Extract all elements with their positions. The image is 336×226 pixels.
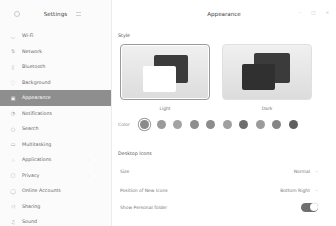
sidebar-item-network[interactable]: ⇅Network [0,44,111,60]
accent-color-row: Color [118,120,305,129]
theme-light-preview[interactable] [120,44,210,100]
header-bar: Appearance – □ × [112,0,336,28]
applications-icon: ⁘ [10,157,16,163]
color-swatch-9[interactable] [272,120,281,129]
sidebar: Settings ◡Wi-Fi⇅Network▯Bluetooth◌Backgr… [0,0,112,226]
sidebar-item-online-accounts[interactable]: ◯Online Accounts [0,183,111,199]
page-title: Appearance [207,11,241,17]
light-window-shape [143,66,176,92]
close-icon[interactable]: × [325,10,330,15]
theme-light[interactable]: Light [120,44,210,111]
sidebar-item-label: Network [22,49,42,54]
color-swatch-7[interactable] [239,120,248,129]
color-swatch-10[interactable] [289,120,298,129]
theme-light-label: Light [159,106,170,111]
sidebar-item-sound[interactable]: ♫Sound [0,214,111,226]
desktop-icons-section-label: Desktop Icons [112,151,152,156]
search-icon[interactable] [14,11,20,17]
color-swatch-2[interactable] [157,120,166,129]
theme-dark-preview[interactable] [222,44,312,100]
theme-dark-label: Dark [262,106,273,111]
minimize-icon[interactable]: – [297,10,302,15]
icon-size-dropdown[interactable]: Normal ⌄ [294,169,318,174]
sidebar-item-wi-fi[interactable]: ◡Wi-Fi [0,28,111,44]
sidebar-item-background[interactable]: ◌Background [0,75,111,91]
sidebar-item-label: Online Accounts [22,188,61,193]
multitasking-icon: ▭ [10,141,16,147]
sidebar-item-label: Applications [22,157,51,162]
background-icon: ◌ [10,79,16,85]
icon-size-row: Size Normal ⌄ [120,164,318,178]
sharing-icon: ◁ [10,203,16,209]
sidebar-header: Settings [0,0,111,28]
settings-window: Settings ◡Wi-Fi⇅Network▯Bluetooth◌Backgr… [0,0,336,226]
sidebar-item-label: Search [22,126,38,131]
color-swatches [140,120,305,129]
main-panel: Appearance – □ × Style Light [112,0,336,226]
chevron-right-icon: › [87,157,89,162]
sidebar-item-label: Background [22,80,51,85]
theme-dark[interactable]: Dark [222,44,312,111]
network-icon: ⇅ [10,48,16,54]
color-swatch-8[interactable] [256,120,265,129]
wifi-icon: ◡ [10,33,16,39]
chevron-right-icon: › [87,173,89,178]
sidebar-item-label: Notifications [22,111,52,116]
sidebar-item-label: Sound [22,219,37,224]
sound-icon: ♫ [10,219,16,225]
sidebar-item-search[interactable]: ○Search [0,121,111,137]
sidebar-item-multitasking[interactable]: ▭Multitasking [0,137,111,153]
personal-folder-label: Show Personal folder [120,205,167,210]
color-swatch-6[interactable] [223,120,232,129]
color-label: Color [118,122,140,127]
icon-size-value: Normal [294,169,310,174]
sidebar-item-bluetooth[interactable]: ▯Bluetooth [0,59,111,75]
sidebar-item-label: Sharing [22,204,40,209]
new-icon-position-row: Position of New Icons Bottom Right ⌄ [120,183,318,197]
new-icon-position-value: Bottom Right [280,188,310,193]
sidebar-item-label: Wi-Fi [22,33,33,38]
personal-folder-row: Show Personal folder [120,200,318,214]
sidebar-item-privacy[interactable]: ▢Privacy› [0,168,111,184]
sidebar-item-label: Bluetooth [22,64,45,69]
sidebar-title: Settings [44,11,68,17]
sidebar-item-appearance[interactable]: ▣Appearance [0,90,111,106]
sidebar-item-label: Multitasking [22,142,51,147]
color-swatch-1[interactable] [140,120,149,129]
chevron-down-icon: ⌄ [315,169,318,173]
sidebar-list: ◡Wi-Fi⇅Network▯Bluetooth◌Background▣Appe… [0,28,111,226]
sidebar-item-notifications[interactable]: ◔Notifications [0,106,111,122]
personal-folder-toggle[interactable] [301,203,318,212]
hamburger-menu-icon[interactable] [76,12,81,16]
color-swatch-5[interactable] [206,120,215,129]
accounts-icon: ◯ [10,188,16,194]
color-swatch-3[interactable] [173,120,182,129]
toggle-knob [310,203,318,211]
appearance-icon: ▣ [10,95,16,101]
style-section-label: Style [112,33,130,38]
new-icon-position-label: Position of New Icons [120,188,168,193]
search-icon: ○ [10,126,16,132]
color-swatch-4[interactable] [190,120,199,129]
chevron-down-icon: ⌄ [315,188,318,192]
sidebar-item-sharing[interactable]: ◁Sharing [0,199,111,215]
theme-selector: Light Dark [120,44,312,111]
sidebar-item-label: Privacy [22,173,39,178]
bell-icon: ◔ [10,110,16,116]
privacy-icon: ▢ [10,172,16,178]
new-icon-position-dropdown[interactable]: Bottom Right ⌄ [280,188,318,193]
window-controls: – □ × [297,10,330,15]
icon-size-label: Size [120,169,129,174]
sidebar-item-applications[interactable]: ⁘Applications› [0,152,111,168]
sidebar-item-label: Appearance [22,95,51,100]
bluetooth-icon: ▯ [10,64,16,70]
dark-window-front-shape [242,64,275,90]
maximize-icon[interactable]: □ [311,10,316,15]
